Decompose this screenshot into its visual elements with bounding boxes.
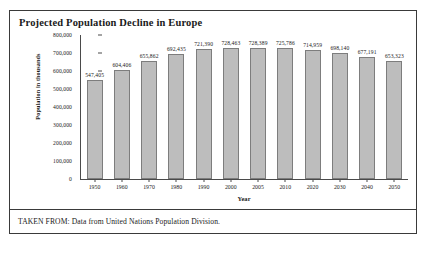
x-tick-mark xyxy=(258,179,259,182)
x-tick-mark xyxy=(394,179,395,182)
x-tick-label: 2010 xyxy=(279,184,291,190)
bar xyxy=(223,48,239,179)
bar xyxy=(168,54,184,179)
x-tick-label: 1970 xyxy=(143,184,155,190)
chart-title: Projected Population Decline in Europe xyxy=(19,17,202,28)
x-tick-label: 1950 xyxy=(89,184,101,190)
x-tick-label: 2040 xyxy=(361,184,373,190)
figure-frame: Projected Population Decline in Europe P… xyxy=(9,10,417,234)
x-tick-label: 1990 xyxy=(198,184,210,190)
bar xyxy=(277,48,293,179)
x-tick-mark xyxy=(285,179,286,182)
x-tick-label: 2020 xyxy=(307,184,319,190)
bar xyxy=(250,48,266,179)
bar-value-label: 728,463 xyxy=(221,40,240,46)
bar-value-label: 728,389 xyxy=(249,40,268,46)
bar-value-label: 725,786 xyxy=(276,40,295,46)
bar xyxy=(196,49,212,179)
bar xyxy=(359,57,375,179)
x-tick-mark xyxy=(121,179,122,182)
x-tick-label: 2050 xyxy=(388,184,400,190)
y-tick-label: 200,000 xyxy=(53,140,72,146)
x-tick-mark xyxy=(149,179,150,182)
bar xyxy=(332,53,348,179)
bar-group: 692,4351980 xyxy=(163,35,190,179)
x-tick-mark xyxy=(94,179,95,182)
plot-area: Population in thousands 800,000700,00060… xyxy=(10,35,415,203)
x-tick-mark xyxy=(339,179,340,182)
footer-divider xyxy=(10,209,416,210)
y-axis-ticks: 800,000700,000600,000500,000400,000300,0… xyxy=(32,35,76,179)
bar-group: 655,8621970 xyxy=(136,35,163,179)
bar-group: 728,3892005 xyxy=(245,35,272,179)
x-axis-label: Year xyxy=(80,195,408,202)
bar-group: 604,4061960 xyxy=(108,35,135,179)
bar-series: 547,4051950604,4061960655,8621970692,435… xyxy=(81,35,408,179)
y-tick-label: 300,000 xyxy=(53,122,72,128)
bar xyxy=(114,70,130,179)
bar-group: 728,4632000 xyxy=(217,35,244,179)
y-tick-label: 700,000 xyxy=(53,50,72,56)
bar-group: 653,3232050 xyxy=(381,35,408,179)
x-tick-label: 1960 xyxy=(116,184,128,190)
x-tick-label: 2000 xyxy=(225,184,237,190)
bar-value-label: 721,390 xyxy=(194,41,213,47)
bar-group: 725,7862010 xyxy=(272,35,299,179)
bar xyxy=(87,80,103,179)
x-tick-mark xyxy=(367,179,368,182)
x-tick-label: 2005 xyxy=(252,184,264,190)
x-tick-mark xyxy=(176,179,177,182)
bar-value-label: 714,959 xyxy=(303,42,322,48)
bar-value-label: 547,405 xyxy=(85,72,104,78)
x-tick-mark xyxy=(203,179,204,182)
bar-group: 698,1402030 xyxy=(326,35,353,179)
bar-group: 721,3901990 xyxy=(190,35,217,179)
bar xyxy=(141,61,157,179)
y-tick-label: 500,000 xyxy=(53,86,72,92)
bar-value-label: 655,862 xyxy=(140,53,159,59)
bar-value-label: 692,435 xyxy=(167,46,186,52)
y-tick-label: 400,000 xyxy=(53,104,72,110)
x-axis-line xyxy=(80,179,408,180)
bar-value-label: 604,406 xyxy=(112,62,131,68)
bar-value-label: 698,140 xyxy=(330,45,349,51)
x-tick-label: 2030 xyxy=(334,184,346,190)
bar-value-label: 653,323 xyxy=(385,53,404,59)
y-tick-label: 100,000 xyxy=(53,158,72,164)
bar-group: 677,1912040 xyxy=(354,35,381,179)
bar-group: 714,9592020 xyxy=(299,35,326,179)
x-tick-mark xyxy=(230,179,231,182)
source-note: TAKEN FROM: Data from United Nations Pop… xyxy=(18,217,220,226)
bar-value-label: 677,191 xyxy=(358,49,377,55)
bar xyxy=(386,61,402,179)
x-tick-label: 1980 xyxy=(170,184,182,190)
x-tick-mark xyxy=(312,179,313,182)
y-tick-label: 0 xyxy=(69,176,72,182)
bar-group: 547,4051950 xyxy=(81,35,108,179)
y-tick-label: 600,000 xyxy=(53,68,72,74)
bar xyxy=(305,50,321,179)
y-tick-label: 800,000 xyxy=(53,32,72,38)
